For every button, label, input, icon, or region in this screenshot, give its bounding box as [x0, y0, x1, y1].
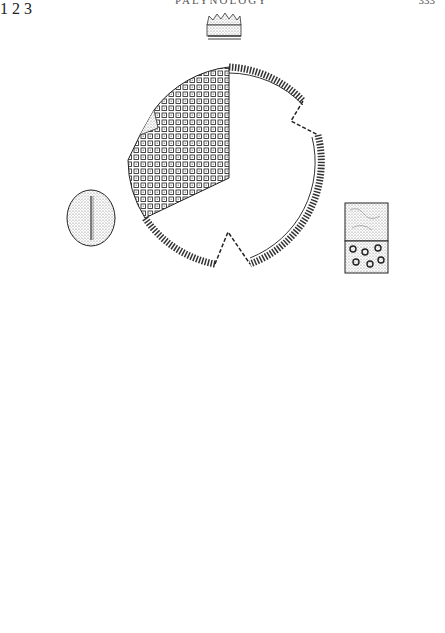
fig1-exine-profile-inset	[207, 13, 241, 39]
plate-illustration	[0, 0, 445, 633]
fig1-equatorial-view	[67, 190, 115, 246]
figure-1	[67, 13, 388, 273]
fig1-surface-inset	[345, 203, 388, 273]
